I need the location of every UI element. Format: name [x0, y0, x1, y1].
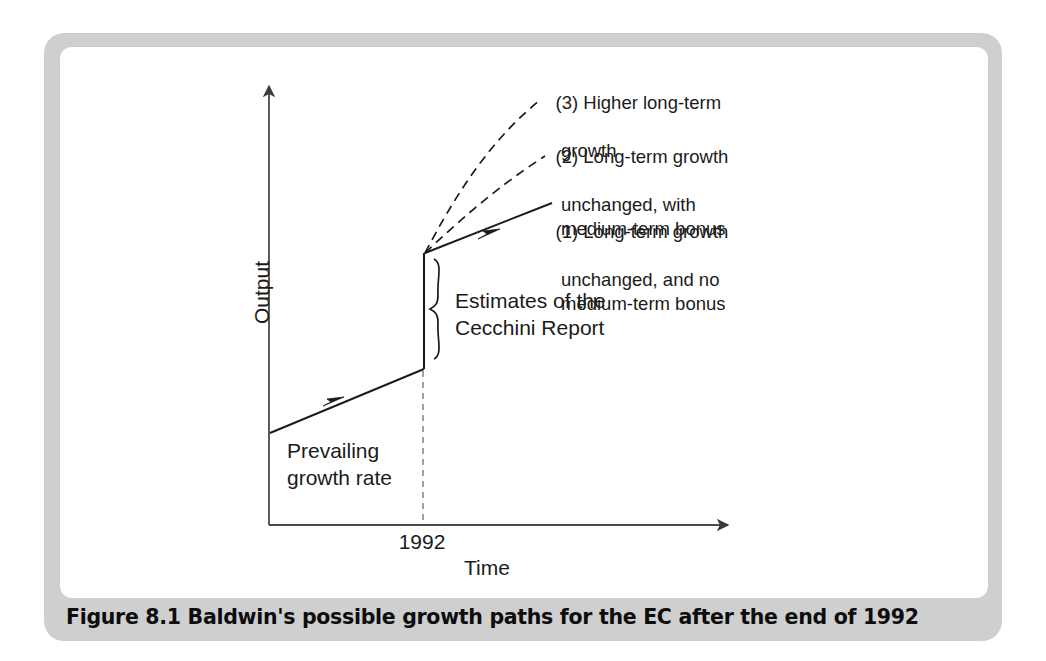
- prevailing-growth-label: Prevailing growth rate: [287, 437, 392, 491]
- cecchini-brace: [430, 259, 439, 359]
- y-axis-label: Output: [250, 264, 274, 324]
- caption-band: Figure 8.1 Baldwin's possible growth pat…: [44, 598, 1002, 641]
- path-1-annotation: (1) Long-term growth unchanged, and no m…: [535, 196, 728, 364]
- path-3-first-line: Higher long-term: [578, 92, 721, 113]
- x-axis-tick-1992: 1992: [382, 530, 462, 554]
- path-3-marker: (3): [556, 92, 579, 113]
- prevailing-growth-arrowhead: [323, 397, 344, 406]
- path-1-first-line: Long-term growth: [578, 221, 728, 242]
- path-1-text-rest: unchanged, and no medium-term bonus: [561, 268, 728, 316]
- figure-caption: Figure 8.1 Baldwin's possible growth pat…: [66, 605, 919, 629]
- path-1-marker: (1): [556, 221, 579, 242]
- prevailing-growth-line: [270, 369, 424, 433]
- path-1-line: [425, 203, 552, 253]
- figure-root: Output Time 1992 Prevailing growth rate …: [0, 0, 1046, 661]
- path-2-marker: (2): [556, 146, 579, 167]
- path-2-curve: [425, 156, 545, 253]
- x-axis-label: Time: [427, 556, 547, 580]
- path-2-first-line: Long-term growth: [578, 146, 728, 167]
